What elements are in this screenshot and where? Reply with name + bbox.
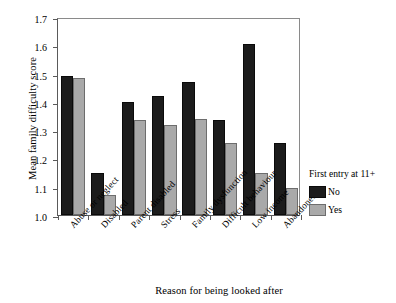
x-axis-title: Reason for being looked after [0,285,396,296]
bar-yes [164,125,176,216]
legend-item-no: No [309,186,395,198]
x-tick [58,215,59,220]
legend-item-yes: Yes [309,204,395,216]
bar-no [152,96,164,215]
y-tick-label: 1.0 [35,213,48,223]
x-tick [88,215,89,220]
bar-chart-figure: Mean family difficulty score 1.01.11.21.… [0,0,396,303]
bar-no [274,143,286,215]
bar-yes [104,195,116,215]
bar-no [182,82,194,215]
x-tick [119,215,120,220]
y-tick-label: 1.4 [35,100,48,110]
legend-title: First entry at 11+ [309,168,395,179]
y-tick-label: 1.6 [35,43,48,53]
bars-layer [58,19,299,215]
bar-yes [134,120,146,215]
plot-area: 1.01.11.21.31.41.51.61.7 [57,18,300,216]
legend-entries: NoYes [309,186,395,216]
bar-no [91,173,103,215]
bar-yes [255,173,267,215]
x-tick [149,215,150,220]
legend-swatch-icon [309,186,326,198]
legend: First entry at 11+ NoYes [309,168,395,222]
y-tick-label: 1.2 [35,156,48,166]
bar-yes [225,143,237,215]
y-tick-label: 1.1 [35,185,48,195]
x-tick [301,215,302,220]
x-tick [240,215,241,220]
bar-no [213,120,225,215]
y-tick-label: 1.7 [35,15,48,25]
x-tick [180,215,181,220]
bar-yes [195,119,207,215]
bar-yes [73,78,85,215]
x-tick [210,215,211,220]
legend-item-label: Yes [328,205,342,215]
bar-yes [286,188,298,215]
legend-swatch-icon [309,204,326,216]
bar-no [61,76,73,215]
bar-no [243,44,255,215]
y-tick-label: 1.3 [35,128,48,138]
legend-item-label: No [328,187,340,197]
x-axis-title-text: Reason for being looked after [113,285,283,296]
bar-no [122,102,134,215]
x-tick [271,215,272,220]
y-tick-label: 1.5 [35,72,48,82]
